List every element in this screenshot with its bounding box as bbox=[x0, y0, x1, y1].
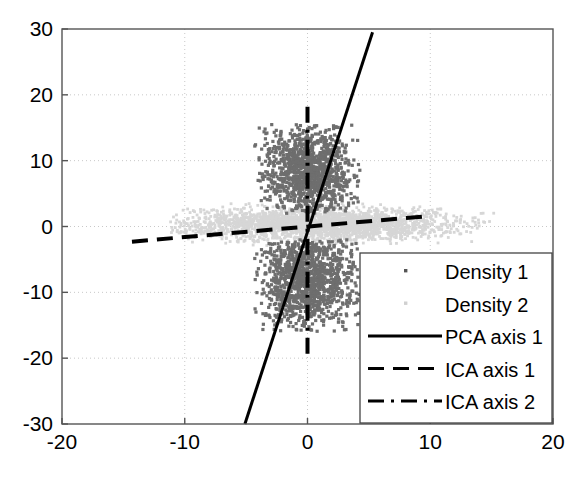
data-point-density-1 bbox=[314, 304, 317, 307]
data-point-density-1 bbox=[352, 201, 355, 204]
data-point-density-2 bbox=[286, 223, 289, 226]
data-point-density-1 bbox=[345, 144, 348, 147]
data-point-density-1 bbox=[260, 148, 263, 151]
data-point-density-2 bbox=[416, 238, 419, 241]
data-point-density-1 bbox=[310, 315, 313, 318]
data-point-density-2 bbox=[259, 236, 262, 239]
data-point-density-1 bbox=[268, 270, 271, 273]
data-point-density-2 bbox=[419, 220, 422, 223]
data-point-density-1 bbox=[255, 271, 258, 274]
data-point-density-1 bbox=[341, 243, 344, 246]
data-point-density-1 bbox=[263, 291, 266, 294]
data-point-density-2 bbox=[368, 207, 371, 210]
data-point-density-1 bbox=[257, 267, 260, 270]
data-point-density-2 bbox=[265, 234, 268, 237]
data-point-density-1 bbox=[343, 279, 346, 282]
data-point-density-1 bbox=[328, 136, 331, 139]
data-point-density-2 bbox=[365, 226, 368, 229]
data-point-density-1 bbox=[306, 267, 309, 270]
data-point-density-2 bbox=[230, 222, 233, 225]
data-point-density-1 bbox=[311, 173, 314, 176]
data-point-density-2 bbox=[368, 228, 371, 231]
data-point-density-1 bbox=[332, 286, 335, 289]
data-point-density-2 bbox=[249, 236, 252, 239]
data-point-density-1 bbox=[331, 258, 334, 261]
data-point-density-2 bbox=[338, 233, 341, 236]
data-point-density-1 bbox=[271, 140, 274, 143]
data-point-density-1 bbox=[325, 281, 328, 284]
data-point-density-2 bbox=[244, 239, 247, 242]
data-point-density-1 bbox=[263, 251, 266, 254]
data-point-density-2 bbox=[323, 237, 326, 240]
data-point-density-1 bbox=[309, 265, 312, 268]
data-point-density-1 bbox=[289, 257, 292, 260]
data-point-density-1 bbox=[326, 158, 329, 161]
data-point-density-1 bbox=[279, 173, 282, 176]
data-point-density-1 bbox=[326, 148, 329, 151]
data-point-density-1 bbox=[346, 185, 349, 188]
data-point-density-1 bbox=[335, 176, 338, 179]
data-point-density-1 bbox=[346, 305, 349, 308]
data-point-density-2 bbox=[333, 234, 336, 237]
data-point-density-1 bbox=[263, 264, 266, 267]
data-point-density-2 bbox=[389, 240, 392, 243]
data-point-density-1 bbox=[328, 244, 331, 247]
data-point-density-1 bbox=[279, 249, 282, 252]
data-point-density-1 bbox=[356, 197, 359, 200]
data-point-density-2 bbox=[390, 235, 393, 238]
data-point-density-2 bbox=[327, 232, 330, 235]
data-point-density-1 bbox=[274, 134, 277, 137]
data-point-density-2 bbox=[463, 221, 466, 224]
data-point-density-1 bbox=[319, 137, 322, 140]
data-point-density-2 bbox=[270, 231, 273, 234]
data-point-density-1 bbox=[303, 200, 306, 203]
data-point-density-1 bbox=[283, 197, 286, 200]
data-point-density-1 bbox=[303, 292, 306, 295]
data-point-density-1 bbox=[317, 161, 320, 164]
data-point-density-1 bbox=[279, 184, 282, 187]
data-point-density-2 bbox=[440, 228, 443, 231]
data-point-density-2 bbox=[378, 227, 381, 230]
data-point-density-1 bbox=[316, 183, 319, 186]
data-point-density-2 bbox=[300, 222, 303, 225]
data-point-density-1 bbox=[301, 316, 304, 319]
data-point-density-2 bbox=[402, 214, 405, 217]
data-point-density-1 bbox=[322, 145, 325, 148]
data-point-density-2 bbox=[348, 235, 351, 238]
data-point-density-1 bbox=[322, 294, 325, 297]
data-point-density-1 bbox=[326, 254, 329, 257]
data-point-density-1 bbox=[316, 172, 319, 175]
data-point-density-1 bbox=[300, 270, 303, 273]
data-point-density-1 bbox=[330, 316, 333, 319]
data-point-density-2 bbox=[313, 218, 316, 221]
data-point-density-1 bbox=[356, 268, 359, 271]
data-point-density-1 bbox=[330, 202, 333, 205]
data-point-density-2 bbox=[284, 236, 287, 239]
data-point-density-1 bbox=[304, 168, 307, 171]
data-point-density-2 bbox=[182, 209, 185, 212]
data-point-density-1 bbox=[295, 123, 298, 126]
data-point-density-1 bbox=[266, 177, 269, 180]
data-point-density-1 bbox=[322, 298, 325, 301]
data-point-density-1 bbox=[356, 298, 359, 301]
data-point-density-1 bbox=[344, 209, 347, 212]
data-point-density-1 bbox=[352, 263, 355, 266]
data-point-density-1 bbox=[311, 248, 314, 251]
data-point-density-2 bbox=[298, 225, 301, 228]
data-point-density-1 bbox=[279, 329, 282, 332]
data-point-density-2 bbox=[245, 203, 248, 206]
data-point-density-2 bbox=[446, 220, 449, 223]
data-point-density-2 bbox=[354, 238, 357, 241]
data-point-density-2 bbox=[362, 235, 365, 238]
data-point-density-1 bbox=[284, 157, 287, 160]
data-point-density-1 bbox=[328, 128, 331, 131]
data-point-density-1 bbox=[322, 324, 325, 327]
data-point-density-2 bbox=[339, 213, 342, 216]
data-point-density-1 bbox=[316, 330, 319, 333]
data-point-density-1 bbox=[313, 161, 316, 164]
data-point-density-1 bbox=[339, 184, 342, 187]
data-point-density-2 bbox=[349, 216, 352, 219]
data-point-density-2 bbox=[179, 224, 182, 227]
data-point-density-2 bbox=[394, 223, 397, 226]
data-point-density-2 bbox=[423, 224, 426, 227]
